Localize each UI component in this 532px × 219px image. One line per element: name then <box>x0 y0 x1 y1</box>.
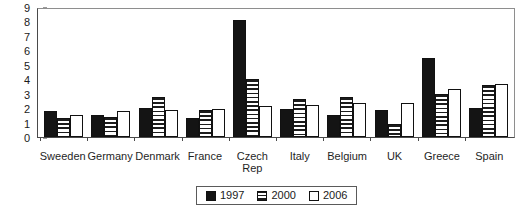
x-axis-label: Greece <box>418 150 465 180</box>
bar-2000[interactable] <box>152 97 165 137</box>
bar-2000[interactable] <box>435 94 448 137</box>
bar-2006[interactable] <box>212 109 225 137</box>
x-tick-mark <box>134 137 135 141</box>
x-axis-label: Germany <box>86 150 133 180</box>
x-tick-mark <box>182 137 183 141</box>
bar-group <box>134 9 181 137</box>
bar-2006[interactable] <box>165 110 178 137</box>
legend-item-2006[interactable]: 2006 <box>309 190 347 201</box>
bar-group <box>182 9 229 137</box>
bar-2006[interactable] <box>70 115 83 137</box>
x-tick-mark <box>40 137 41 141</box>
x-axis-label: Denmark <box>134 150 181 180</box>
bar-1997[interactable] <box>469 108 482 137</box>
x-axis-label: France <box>181 150 228 180</box>
bar-group <box>465 9 512 137</box>
bar-group <box>87 9 134 137</box>
bar-2000[interactable] <box>482 85 495 137</box>
bar-2000[interactable] <box>293 99 306 137</box>
bar-2000[interactable] <box>57 118 70 137</box>
bar-2000[interactable] <box>199 110 212 137</box>
x-axis-label: Czech Rep <box>229 150 276 180</box>
y-tick-label: 3 <box>10 89 30 100</box>
bar-1997[interactable] <box>186 118 199 138</box>
bar-2006[interactable] <box>353 103 366 137</box>
y-tick-label: 5 <box>10 60 30 71</box>
legend-swatch-icon <box>257 191 267 201</box>
bar-group <box>370 9 417 137</box>
x-axis-label: Sweeden <box>39 150 86 180</box>
bar-group <box>40 9 87 137</box>
bar-2006[interactable] <box>117 111 130 137</box>
bar-2000[interactable] <box>388 124 401 137</box>
bar-2000[interactable] <box>340 97 353 137</box>
bar-2006[interactable] <box>401 103 414 137</box>
y-tick-label: 1 <box>10 118 30 129</box>
bar-group <box>229 9 276 137</box>
bar-group <box>418 9 465 137</box>
bar-1997[interactable] <box>91 115 104 137</box>
x-axis-label: Belgium <box>323 150 370 180</box>
x-axis-label: UK <box>371 150 418 180</box>
bar-1997[interactable] <box>44 111 57 137</box>
bar-1997[interactable] <box>422 58 435 137</box>
x-axis-label: Italy <box>276 150 323 180</box>
bar-1997[interactable] <box>327 115 340 137</box>
bar-1997[interactable] <box>280 109 293 137</box>
bar-2000[interactable] <box>246 79 259 137</box>
x-tick-mark <box>87 137 88 141</box>
legend-item-1997[interactable]: 1997 <box>206 190 244 201</box>
y-tick-label: 2 <box>10 104 30 115</box>
bar-chart: 0123456789 SweedenGermanyDenmarkFranceCz… <box>0 0 532 219</box>
legend-label: 2006 <box>323 190 347 201</box>
y-tick-label: 0 <box>10 133 30 144</box>
y-tick-label: 9 <box>10 3 30 14</box>
x-axis-labels: SweedenGermanyDenmarkFranceCzech RepItal… <box>37 150 515 180</box>
plot-area <box>37 8 515 138</box>
y-tick-label: 4 <box>10 75 30 86</box>
x-tick-mark <box>370 137 371 141</box>
bar-1997[interactable] <box>139 108 152 137</box>
y-tick-label: 6 <box>10 46 30 57</box>
x-axis-label: Spain <box>466 150 513 180</box>
bar-1997[interactable] <box>375 110 388 137</box>
bar-2006[interactable] <box>448 89 461 137</box>
legend-label: 1997 <box>220 190 244 201</box>
y-tick-label: 8 <box>10 17 30 28</box>
y-tick-label: 7 <box>10 31 30 42</box>
bar-2006[interactable] <box>306 105 319 138</box>
y-axis: 0123456789 <box>10 8 30 138</box>
legend-label: 2000 <box>271 190 295 201</box>
legend-swatch-icon <box>206 191 216 201</box>
x-tick-mark <box>229 137 230 141</box>
x-tick-mark <box>418 137 419 141</box>
bar-2006[interactable] <box>495 84 508 137</box>
bar-2006[interactable] <box>259 106 272 137</box>
legend-item-2000[interactable]: 2000 <box>257 190 295 201</box>
legend-swatch-icon <box>309 191 319 201</box>
x-tick-mark <box>276 137 277 141</box>
bar-1997[interactable] <box>233 20 246 137</box>
bar-group <box>276 9 323 137</box>
x-tick-mark <box>323 137 324 141</box>
bar-group <box>323 9 370 137</box>
plot-wrapper: 0123456789 <box>0 8 532 148</box>
bar-groups <box>38 9 514 137</box>
x-tick-mark <box>465 137 466 141</box>
chart-legend: 199720002006 <box>196 186 357 205</box>
bar-2000[interactable] <box>104 117 117 137</box>
